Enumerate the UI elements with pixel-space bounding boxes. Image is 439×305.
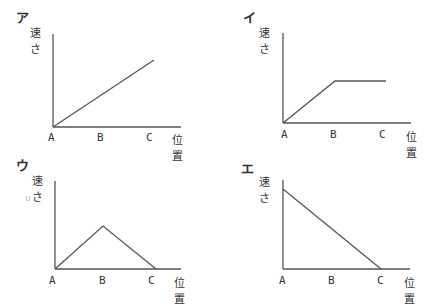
plot-area [0, 0, 439, 305]
speed-line [283, 189, 381, 269]
tick-a: A [279, 274, 286, 287]
x-axis-label: 位置 [404, 274, 415, 305]
tick-b: B [328, 274, 335, 287]
tick-c: C [377, 274, 384, 287]
